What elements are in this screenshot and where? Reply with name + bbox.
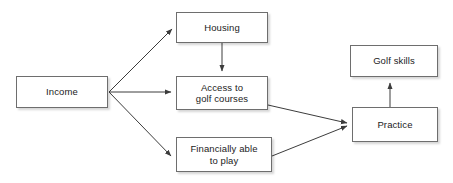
edge-financially-able-practice [272,126,347,156]
edge-income-housing [109,29,172,92]
node-access-to-golf-courses[interactable]: Access to golf courses [176,76,268,110]
node-housing[interactable]: Housing [176,12,268,43]
node-income-label: Income [44,86,80,98]
node-practice[interactable]: Practice [352,107,438,142]
node-income[interactable]: Income [16,76,108,108]
node-golf-skills[interactable]: Golf skills [350,45,438,77]
edge-income-financially-able [109,92,171,156]
node-housing-label: Housing [202,22,242,34]
diagram-canvas: Income Housing Access to golf courses Fi… [0,0,453,183]
node-practice-label: Practice [375,119,414,131]
node-financially-able-to-play-label: Financially able to play [188,143,259,166]
node-access-to-golf-courses-label: Access to golf courses [194,82,250,105]
edge-access-practice [268,105,347,123]
node-financially-able-to-play[interactable]: Financially able to play [176,137,272,172]
node-golf-skills-label: Golf skills [371,55,417,67]
